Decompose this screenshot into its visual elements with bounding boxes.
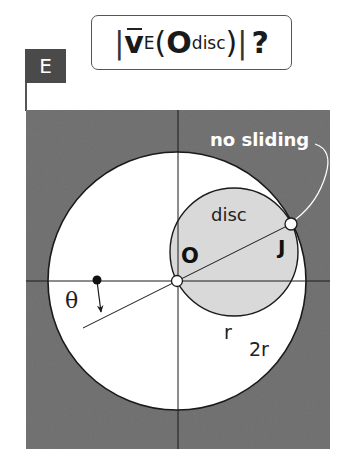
disc-label: disc [211,204,247,225]
point-J-marker [285,218,297,230]
theta-label: θ [65,288,78,313]
reference-point-dot [93,276,102,285]
mechanics-diagram: no sliding disc O J θ r 2r [0,0,355,467]
point-O-marker [172,276,183,287]
point-J-label: J [276,235,285,259]
ring-radius-label: 2r [249,338,269,360]
disc-radius-label: r [224,321,232,343]
no-sliding-label: no sliding [210,129,309,150]
point-O-label: O [181,244,199,268]
